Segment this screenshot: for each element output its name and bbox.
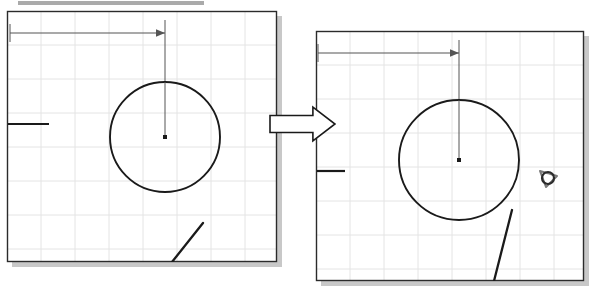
- panel-paper: [7, 11, 277, 262]
- circle-center-point: [457, 158, 461, 162]
- top-gray-bar: [18, 1, 204, 5]
- sketch-panel-after: [316, 31, 589, 286]
- illustration-stage: [0, 0, 594, 293]
- sketch-panel-before: [7, 11, 282, 267]
- panel-paper: [316, 31, 584, 281]
- circle-center-point: [163, 135, 167, 139]
- sketch-comparison-figure: [0, 0, 594, 293]
- snap-marker-hole: [545, 175, 552, 182]
